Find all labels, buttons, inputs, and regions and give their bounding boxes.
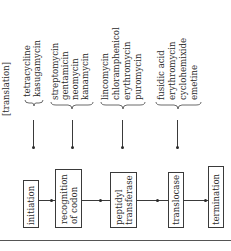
antibiotic-label: lincomycin	[100, 53, 110, 100]
step-label: peptidyl	[114, 190, 124, 225]
step-box-translocase: translocase	[168, 172, 184, 228]
antibiotic-label: chloramphenicol	[111, 27, 121, 100]
antibiotic-label: erythromycin	[122, 42, 132, 100]
antibiotic-label: cyclohemixide	[178, 38, 188, 100]
flow-arrow	[82, 200, 110, 201]
brace-icon	[50, 101, 94, 110]
step-box-termination: termination	[208, 166, 224, 228]
antibiotic-label: kasugamycin	[32, 40, 42, 97]
step-box-initiation: initiation	[23, 180, 39, 228]
arrow-head-icon	[71, 146, 74, 149]
step-label: recognition	[59, 174, 69, 224]
step-box-peptidyl-transferase: peptidyl transferase	[110, 172, 137, 228]
bottom-rule	[0, 240, 231, 241]
flow-arrow	[137, 200, 168, 201]
brace-icon	[24, 99, 44, 107]
diagram-title: [translation]	[1, 62, 11, 116]
antibiotic-label: fusidic acid	[156, 50, 166, 100]
arrow-head-icon	[32, 146, 35, 149]
brace-icon	[100, 101, 146, 110]
step-label: initiation	[26, 186, 36, 225]
arrow-head-icon	[121, 146, 124, 149]
arrow-head-icon	[99, 199, 102, 202]
arrow-head-icon	[204, 199, 207, 202]
step-box-recognition-of-codon: recognition of codon	[55, 169, 82, 228]
antibiotic-label: tetracycline	[22, 45, 32, 97]
arrow-head-icon	[176, 146, 179, 149]
antibiotic-label: kanamycin	[80, 53, 90, 100]
arrow-line	[177, 120, 178, 148]
antibiotic-label: erythromycin	[167, 42, 177, 100]
step-label: transferase	[124, 175, 134, 225]
step-label: translocase	[171, 175, 181, 225]
antibiotic-label: puromycin	[133, 54, 143, 100]
antibiotic-label: gentamicin	[60, 51, 70, 100]
arrow-head-icon	[156, 199, 159, 202]
antibiotic-label: streptomycin	[50, 43, 60, 100]
brace-icon	[155, 101, 202, 110]
arrow-line	[33, 120, 34, 148]
arrow-line	[122, 120, 123, 148]
arrow-head-icon	[50, 199, 53, 202]
step-label: termination	[211, 174, 221, 225]
arrow-line	[72, 120, 73, 148]
step-label: of codon	[69, 187, 79, 224]
antibiotic-label: neomycin	[70, 58, 80, 100]
antibiotic-label: emetine	[189, 65, 199, 100]
